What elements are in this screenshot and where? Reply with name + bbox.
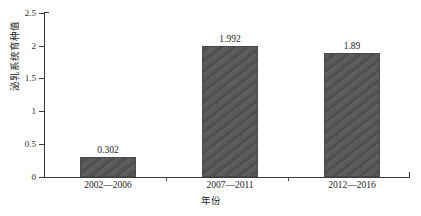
bar-value-label: 0.302 — [97, 145, 118, 155]
bar-2012-2016 — [324, 53, 380, 177]
y-tick-label: 1 — [6, 107, 36, 116]
bar-2002-2006 — [80, 157, 136, 177]
y-axis-title: 泌乳系统育种值 — [10, 8, 21, 104]
x-category-label: 2012—2016 — [328, 180, 376, 191]
x-tick-mark — [166, 177, 167, 181]
bar-value-label: 1.992 — [219, 34, 240, 44]
bar-2007-2011 — [202, 46, 258, 177]
x-axis-title: 年份 — [0, 196, 421, 207]
x-category-label: 2002—2006 — [84, 180, 132, 191]
x-tick-mark — [288, 177, 289, 181]
x-axis-line — [44, 177, 410, 178]
x-category-label: 2007—2011 — [206, 180, 253, 191]
y-tick-label: 0.5 — [6, 140, 36, 149]
y-tick-mark — [39, 177, 44, 178]
bar-chart: 0 0.5 1 1.5 2 2.5 0.302 1.992 1.89 2002—… — [0, 0, 421, 216]
y-tick-label: 0 — [6, 173, 36, 182]
bar-value-label: 1.89 — [344, 41, 361, 51]
